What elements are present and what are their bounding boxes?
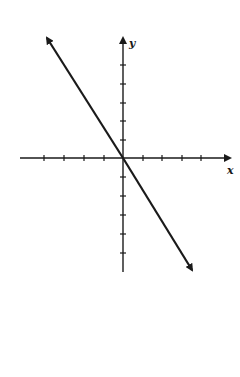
x-axis-label: x (226, 164, 234, 177)
plotted-line-upper (47, 38, 123, 158)
plotted-line (123, 158, 192, 270)
y-axis-label: y (128, 37, 137, 50)
coordinate-plane: y x (0, 0, 240, 377)
